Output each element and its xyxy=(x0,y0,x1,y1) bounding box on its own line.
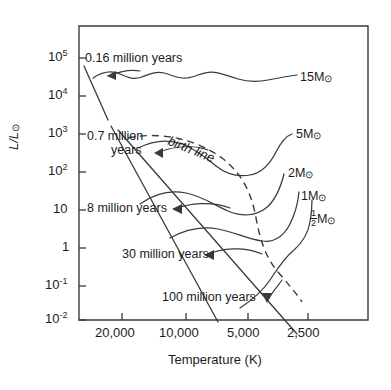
y-tick-label-1e-2: 10-2 xyxy=(45,312,67,327)
mass-label-half-msun: 1 2 M⊙ xyxy=(310,209,335,228)
mass-label-1msun: 1M⊙ xyxy=(301,189,326,204)
y-tick-label-1e5: 105 xyxy=(48,50,67,65)
y-tick-label-1: 1 xyxy=(62,240,69,255)
y-tick-label-1e-1: 10-1 xyxy=(45,278,67,293)
y-tick-label-1e3: 103 xyxy=(48,126,67,141)
annotation-30-million-years: 30 million years xyxy=(122,247,209,261)
track-1msun xyxy=(170,192,299,241)
y-axis-title: L/L⊙ xyxy=(6,124,21,150)
x-tick-label-10000: 10,000 xyxy=(159,326,199,341)
x-tick-label-2500: 2,500 xyxy=(287,326,320,341)
leader-100 xyxy=(268,280,282,300)
x-tick-label-5000: 5,000 xyxy=(227,326,260,341)
sun-symbol-icon: ⊙ xyxy=(313,130,321,141)
mass-label-2msun: 2M⊙ xyxy=(288,166,313,181)
sun-symbol-icon: ⊙ xyxy=(305,169,313,180)
arrowhead-8 xyxy=(172,204,182,214)
isochrone-016-line xyxy=(84,66,108,120)
x-tick-label-20000: 20,000 xyxy=(95,326,135,341)
track-15msun xyxy=(93,72,297,81)
y-axis-ticks xyxy=(79,58,86,320)
sun-symbol-icon: ⊙ xyxy=(327,215,335,226)
mass-label-15msun: 15M⊙ xyxy=(300,70,332,85)
birth-line-curve xyxy=(128,135,302,302)
arrowhead-100 xyxy=(262,293,272,303)
mass-label-5msun: 5M⊙ xyxy=(296,127,321,142)
leader-30 xyxy=(206,249,262,255)
one-half-fraction: 1 2 xyxy=(310,209,317,228)
y-tick-label-10: 10 xyxy=(53,202,67,217)
sun-symbol-icon: ⊙ xyxy=(10,124,21,132)
arrowhead-07 xyxy=(154,148,163,158)
annotation-016-million-years: 0.16 million years xyxy=(85,51,182,65)
hr-diagram-figure: 105 104 103 102 10 1 10-1 10-2 L/L⊙ 20,0… xyxy=(0,0,391,390)
annotation-07-line1: 0.7 million xyxy=(87,129,143,143)
annotation-07-line2: years xyxy=(111,143,142,157)
y-tick-label-1e4: 104 xyxy=(48,88,67,103)
sun-symbol-icon: ⊙ xyxy=(324,73,332,84)
y-tick-label-1e2: 102 xyxy=(48,164,67,179)
x-axis-title: Temperature (K) xyxy=(168,353,262,368)
annotation-leaders xyxy=(107,70,282,303)
annotation-07-million-years: 0.7 million years xyxy=(87,129,143,157)
annotation-8-million-years: 8 million years xyxy=(87,201,167,215)
annotation-100-million-years: 100 million years xyxy=(162,290,256,304)
sun-symbol-icon: ⊙ xyxy=(318,192,326,203)
